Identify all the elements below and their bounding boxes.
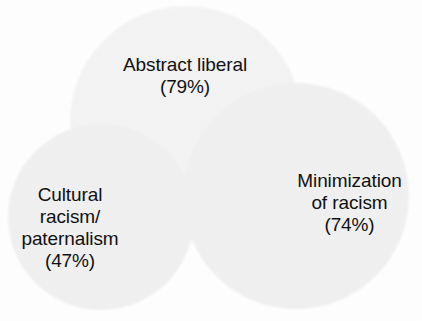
venn-circle-minimization-of-racism [183, 83, 409, 309]
venn-diagram-canvas [0, 0, 422, 321]
venn-circle-cultural-racism-paternalism [8, 124, 194, 310]
venn-diagram: Abstract liberal (79%) Cultural racism/ … [0, 0, 422, 321]
